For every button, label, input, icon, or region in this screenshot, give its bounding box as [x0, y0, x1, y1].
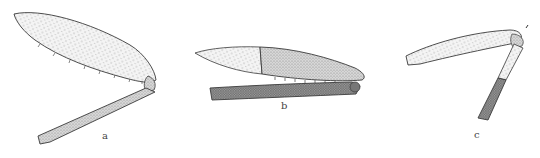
panel-label-a: a — [102, 131, 108, 141]
panel-label-c: c — [474, 130, 480, 140]
leg-drawings — [0, 0, 540, 158]
panel-a-leg — [14, 13, 156, 144]
panel-c-leg — [406, 25, 528, 120]
illustration-figure: a b c — [0, 0, 540, 158]
panel-b-leg — [195, 47, 364, 100]
panel-label-b: b — [281, 101, 287, 111]
